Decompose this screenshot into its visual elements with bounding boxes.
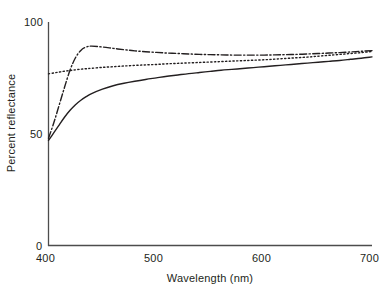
curve-solid-curve <box>49 57 373 141</box>
x-tick-label-400: 400 <box>36 252 55 264</box>
y-tick-label-0: 0 <box>36 240 42 252</box>
x-axis-title: Wavelength (nm) <box>48 272 372 284</box>
x-tick-label-600: 600 <box>252 252 271 264</box>
x-tick-label-700: 700 <box>360 252 379 264</box>
data-curves <box>49 46 373 140</box>
y-axis-title-container: Percent reflectance <box>2 0 20 246</box>
y-tick-label-100: 100 <box>24 16 43 28</box>
reflectance-chart-figure: Percent reflectance 100 50 0 400 500 600… <box>0 0 389 299</box>
x-tick-label-500: 500 <box>144 252 163 264</box>
y-tick-label-50: 50 <box>30 128 43 140</box>
plot-area <box>0 0 389 299</box>
y-axis-title: Percent reflectance <box>5 74 17 173</box>
curve-dash-dot-curve <box>49 46 373 138</box>
